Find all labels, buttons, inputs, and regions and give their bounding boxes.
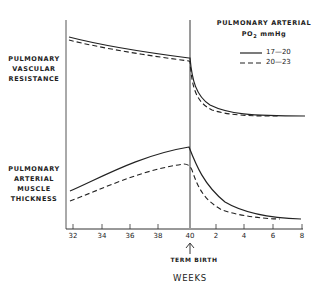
x-axis-label: WEEKS	[173, 273, 207, 283]
upper-y-label-line: RESISTANCE	[4, 74, 64, 84]
lower-dashed-series	[70, 164, 280, 219]
x-tick-label: 38	[154, 232, 163, 240]
lower-y-label-line: MUSCLE	[4, 184, 64, 194]
legend-title-line2: PO2 mmHg	[213, 29, 315, 42]
chart-canvas	[0, 0, 318, 288]
x-tick-label: 4	[242, 232, 246, 240]
x-ticks	[73, 224, 302, 229]
legend-entry-solid: 17—20	[266, 48, 291, 56]
lower-y-label-line: THICKNESS	[4, 194, 64, 204]
x-tick-label: 40	[186, 232, 195, 240]
upper-y-label-line: PULMONARY	[4, 54, 64, 64]
birth-arrow-icon	[186, 243, 194, 254]
upper-y-label: PULMONARY VASCULAR RESISTANCE	[4, 54, 64, 84]
legend-po-text: PO	[242, 30, 254, 38]
legend-title-line1: PULMONARY ARTERIAL	[213, 18, 315, 29]
upper-dashed-series	[69, 40, 278, 116]
legend-unit-text: mmHg	[257, 30, 286, 38]
x-tick-label: 2	[214, 232, 218, 240]
upper-y-label-line: VASCULAR	[4, 64, 64, 74]
term-birth-annotation: TERM BIRTH	[170, 256, 217, 263]
x-tick-label: 36	[126, 232, 135, 240]
legend-entry-dashed: 20—23	[266, 58, 291, 66]
lower-y-label-line: PULMONARY	[4, 164, 64, 174]
lower-solid-series	[70, 147, 301, 219]
x-tick-label: 8	[300, 232, 304, 240]
lower-y-label-line: ARTERIAL	[4, 174, 64, 184]
x-tick-label: 34	[98, 232, 107, 240]
x-tick-label: 32	[69, 232, 78, 240]
lower-y-label: PULMONARY ARTERIAL MUSCLE THICKNESS	[4, 164, 64, 204]
x-tick-label: 6	[271, 232, 275, 240]
legend-title: PULMONARY ARTERIAL PO2 mmHg	[213, 18, 315, 42]
